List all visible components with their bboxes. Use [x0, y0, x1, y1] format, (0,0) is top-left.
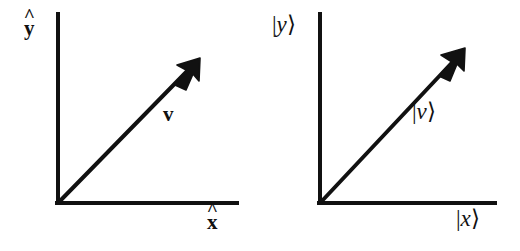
- ket-y-angle-glyph: ⟩: [287, 12, 296, 37]
- vector-diagram-dirac: |y⟩ |x⟩ |v⟩: [260, 0, 520, 251]
- ket-x-variable: x: [461, 206, 471, 231]
- y-hat-glyph-group: ^ y: [24, 18, 35, 39]
- vector-diagram-classical: ^ y ^ x v: [0, 0, 260, 251]
- y-hat-accent-icon: ^: [24, 6, 35, 25]
- ket-v-variable: v: [417, 99, 427, 124]
- ket-y-variable: y: [277, 12, 287, 37]
- y-axis-label-classical: ^ y: [24, 18, 35, 39]
- x-hat-glyph-group: ^ x: [207, 212, 218, 233]
- vector-arrow-shaft: [59, 62, 196, 202]
- ket-v-angle-glyph: ⟩: [427, 99, 436, 124]
- figure-root: ^ y ^ x v |y⟩: [0, 0, 520, 251]
- dirac-axes-and-vector-svg: [260, 0, 520, 251]
- vector-arrowhead: [175, 58, 200, 90]
- vector-label-dirac: |v⟩: [412, 100, 436, 123]
- ket-x-angle-glyph: ⟩: [471, 206, 480, 231]
- x-hat-accent-icon: ^: [207, 200, 218, 219]
- x-axis-label-dirac: |x⟩: [456, 207, 480, 230]
- x-axis-label-classical: ^ x: [207, 212, 218, 233]
- classical-axes-and-vector-svg: [0, 0, 260, 251]
- vector-label-classical: v: [163, 104, 174, 125]
- ket-vector-arrowhead: [439, 48, 465, 81]
- y-axis-label-dirac: |y⟩: [272, 13, 296, 36]
